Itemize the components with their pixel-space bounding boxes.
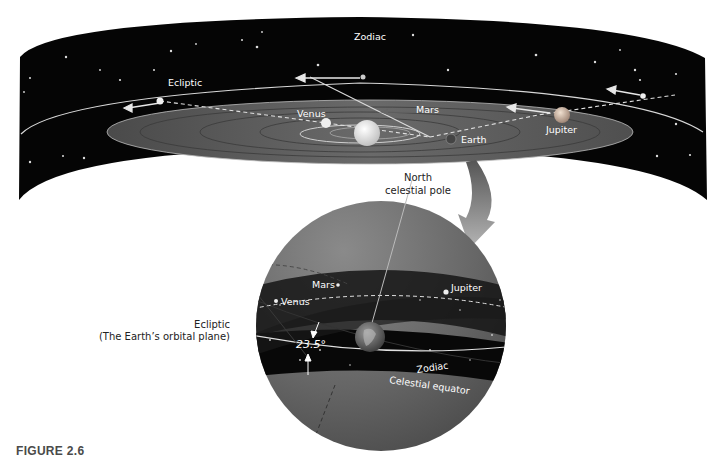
planet-jupiter [554, 107, 570, 123]
sphere-ecliptic-label-line2: (The Earth’s orbital plane) [99, 331, 230, 342]
figure-caption: FIGURE 2.6 [16, 444, 84, 458]
sphere-mars-label: Mars [312, 279, 335, 290]
planet-outer-left [157, 98, 164, 105]
earth-label: Earth [461, 134, 486, 145]
zodiac-label: Zodiac [354, 31, 386, 42]
sphere-venus [274, 299, 278, 303]
north-pole-label-line1: North [404, 172, 432, 183]
venus-label: Venus [297, 108, 326, 119]
planet-earth [446, 134, 456, 144]
sphere-jupiter-label: Jupiter [450, 282, 482, 293]
sun [354, 120, 380, 146]
sphere-jupiter [443, 289, 448, 294]
planet-mars-far [361, 75, 366, 80]
sphere-ecliptic-label-line1: Ecliptic [194, 319, 230, 330]
ecliptic-label: Ecliptic [168, 77, 202, 88]
jupiter-label: Jupiter [545, 124, 577, 135]
zodiac-band: Zodiac Ecliptic Venus Mars Earth Jupiter [19, 17, 707, 200]
planet-outer-right [640, 93, 646, 99]
planet-venus [321, 118, 331, 128]
mars-label: Mars [416, 104, 439, 115]
sphere-mars [336, 283, 340, 287]
north-pole-label-line2: celestial pole [385, 185, 451, 196]
tilt-angle-label: 23.5° [296, 338, 326, 351]
sphere-venus-label: Venus [281, 296, 310, 307]
celestial-diagram: Zodiac Ecliptic Venus Mars Earth Jupiter [0, 0, 723, 465]
